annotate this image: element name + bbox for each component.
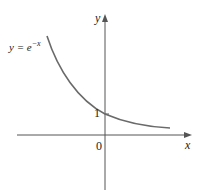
- plot-canvas: [0, 0, 203, 195]
- y-intercept-label: 1: [94, 107, 100, 119]
- function-label: y = e−x: [9, 39, 41, 53]
- y-axis-arrow-icon: [102, 14, 108, 22]
- y-axis-label: y: [95, 12, 100, 24]
- x-axis-label: x: [185, 139, 190, 151]
- origin-label: 0: [96, 140, 102, 152]
